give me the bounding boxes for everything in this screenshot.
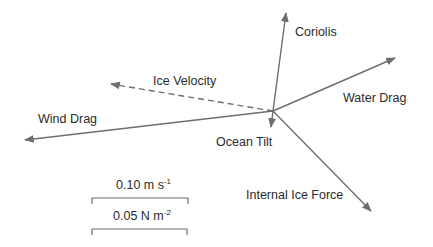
stress-scale-value: 0.05 N m [113,209,164,223]
stress-scale-label: 0.05 N m-2 [113,209,171,223]
internal-ice-force-label: Internal Ice Force [246,189,343,202]
ice-velocity-arrow [111,84,273,111]
ice-velocity-label: Ice Velocity [153,75,216,88]
velocity-scale-exponent: -1 [164,177,171,186]
stress-scale-exponent: -2 [164,208,171,217]
velocity-scale-value: 0.10 m s [116,178,164,192]
stress-scale-bar [92,229,187,235]
wind-drag-label: Wind Drag [38,113,97,126]
ocean-tilt-label: Ocean Tilt [216,136,272,149]
ocean-tilt-arrow [271,111,273,127]
velocity-scale-bar [92,198,188,204]
velocity-scale-label: 0.10 m s-1 [116,178,171,192]
coriolis-arrow [273,13,286,111]
coriolis-label: Coriolis [295,26,337,39]
water-drag-label: Water Drag [343,92,406,105]
